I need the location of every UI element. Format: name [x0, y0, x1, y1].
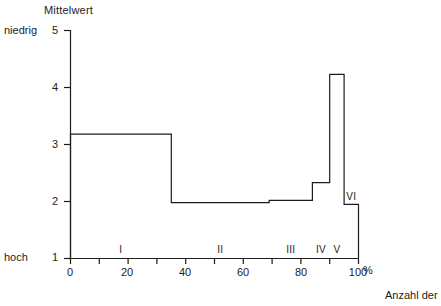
segment-label-v: V: [322, 245, 352, 255]
segment-label-ii: II: [205, 245, 235, 255]
segment-label-i: I: [106, 245, 136, 255]
y-tick-label-2: 2: [44, 196, 58, 207]
y-tick-label-4: 4: [44, 82, 58, 93]
x-axis-ticks: [71, 259, 359, 265]
x-axis-percent-sign: %: [363, 265, 373, 276]
y-axis-high-label: hoch: [4, 252, 28, 263]
x-axis-caption: Anzahl der Probanden (v. H.): [385, 264, 439, 306]
x-tick-label-40: 40: [170, 267, 200, 278]
y-tick-label-3: 3: [44, 139, 58, 150]
x-tick-label-60: 60: [228, 267, 258, 278]
segment-label-vi: VI: [336, 192, 366, 202]
chart-figure: Mittelwert niedrig hoch 5 4 3 2 1 0 20 4…: [0, 0, 441, 306]
y-axis-ticks: [64, 31, 70, 259]
x-tick-label-0: 0: [55, 267, 85, 278]
segment-label-iii: III: [276, 245, 306, 255]
histogram-outline: [71, 74, 359, 258]
x-tick-label-20: 20: [112, 267, 142, 278]
y-tick-label-5: 5: [44, 25, 58, 36]
chart-plot-area: [0, 0, 441, 306]
y-axis-low-label: niedrig: [4, 25, 37, 36]
chart-title: Mittelwert: [44, 5, 93, 16]
y-tick-label-1: 1: [44, 252, 58, 263]
x-tick-label-80: 80: [286, 267, 316, 278]
x-axis-caption-line1: Anzahl der: [385, 289, 439, 302]
